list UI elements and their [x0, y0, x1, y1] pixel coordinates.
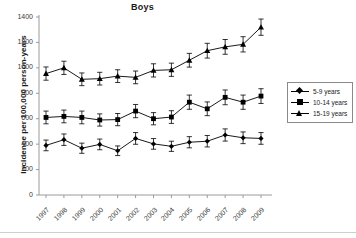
- data-point: [205, 106, 210, 111]
- data-point: [62, 114, 67, 119]
- legend-item-5-9[interactable]: 5-9 years: [290, 86, 350, 97]
- data-point: [43, 143, 48, 148]
- legend-label: 5-9 years: [310, 88, 340, 95]
- data-point: [97, 142, 102, 147]
- chart-legend: 5-9 years 10-14 years 15-19 years: [287, 82, 353, 123]
- data-point: [223, 132, 228, 137]
- data-point: [169, 115, 174, 120]
- data-point: [44, 115, 49, 120]
- data-point: [133, 109, 138, 114]
- data-point: [97, 118, 102, 123]
- data-point: [258, 24, 264, 29]
- data-point: [187, 140, 192, 145]
- legend-item-15-19[interactable]: 15-19 years: [290, 108, 350, 119]
- page-divider: [0, 232, 356, 233]
- data-point: [133, 136, 138, 141]
- data-point: [240, 135, 245, 140]
- data-point: [61, 65, 67, 70]
- data-point: [241, 100, 246, 105]
- data-point: [79, 146, 84, 151]
- data-point: [151, 116, 156, 121]
- chart-figure: Boys Incidence per 100,000 person-years …: [0, 0, 356, 238]
- data-point: [61, 137, 66, 142]
- data-point: [79, 115, 84, 120]
- legend-label: 10-14 years: [310, 99, 347, 106]
- series-10-14-years: [43, 89, 263, 126]
- legend-item-10-14[interactable]: 10-14 years: [290, 97, 350, 108]
- data-point: [223, 95, 228, 100]
- data-point: [169, 144, 174, 149]
- data-point: [115, 117, 120, 122]
- data-point: [258, 136, 263, 141]
- legend-label: 15-19 years: [310, 110, 347, 117]
- series-15-19-years: [43, 19, 264, 86]
- series-5-9-years: [43, 129, 263, 156]
- legend-marker-square-icon: [290, 97, 310, 108]
- legend-marker-triangle-icon: [290, 108, 310, 119]
- data-point: [186, 57, 192, 62]
- data-point: [151, 141, 156, 146]
- legend-marker-diamond-icon: [290, 86, 310, 97]
- data-point: [205, 139, 210, 144]
- data-point: [259, 94, 264, 99]
- data-point: [115, 148, 120, 153]
- data-point: [187, 100, 192, 105]
